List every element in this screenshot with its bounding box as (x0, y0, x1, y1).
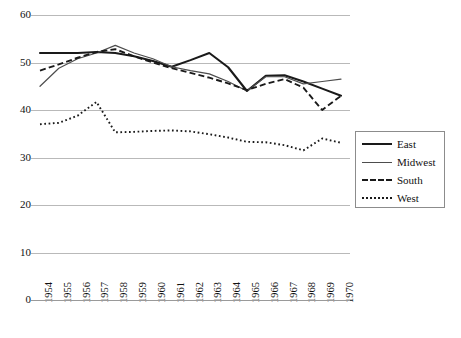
legend-label-east: East (397, 136, 416, 152)
line-chart: 0102030405060 19541955195619571958195919… (0, 0, 461, 338)
x-axis-line (31, 300, 350, 301)
legend-swatch-midwest (362, 162, 392, 163)
legend-label-west: West (397, 190, 419, 206)
legend-swatch-east (362, 143, 392, 145)
legend-swatch-south (362, 179, 392, 181)
legend-item-east[interactable]: East (362, 136, 442, 152)
series-line-west (40, 102, 341, 150)
chart-legend: East Midwest South West (355, 131, 445, 208)
legend-swatch-west (362, 197, 392, 199)
legend-item-midwest[interactable]: Midwest (362, 154, 442, 170)
legend-label-midwest: Midwest (397, 154, 436, 170)
legend-item-west[interactable]: West (362, 190, 442, 206)
legend-label-south: South (397, 172, 423, 188)
legend-item-south[interactable]: South (362, 172, 442, 188)
